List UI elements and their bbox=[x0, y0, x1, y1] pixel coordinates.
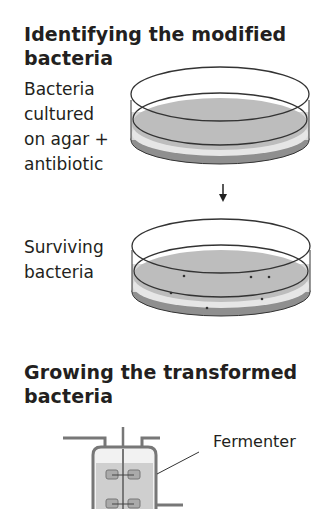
down-arrow-icon bbox=[219, 184, 227, 202]
petri-dish-with-colonies bbox=[132, 219, 310, 316]
diagram-canvas bbox=[0, 0, 322, 509]
petri-dish-agar bbox=[131, 67, 309, 164]
fermenter bbox=[63, 427, 199, 509]
